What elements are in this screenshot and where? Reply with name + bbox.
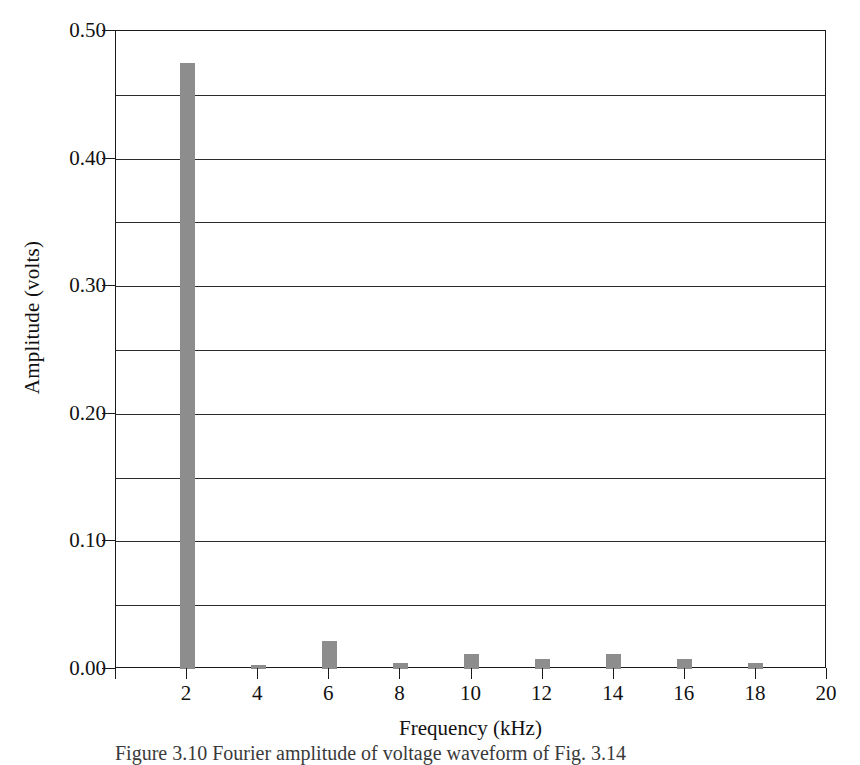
- bar: [606, 654, 621, 669]
- y-axis-tick-label: 0.50: [26, 20, 106, 41]
- y-axis-tick-label: 0.20: [26, 403, 106, 424]
- gridline: [116, 159, 825, 160]
- x-axis-title: Frequency (kHz): [115, 716, 826, 741]
- y-axis-tick-label: 0.10: [26, 530, 106, 551]
- y-axis-tick-mark: [102, 285, 116, 286]
- y-axis-tick-mark: [102, 668, 116, 669]
- x-axis-tick-mark: [613, 668, 614, 679]
- y-axis-tick-label: 0.00: [26, 658, 106, 679]
- x-axis-tick-label: 12: [512, 683, 572, 704]
- x-axis-tick-label: 10: [441, 683, 501, 704]
- gridline: [116, 541, 825, 542]
- bar: [535, 659, 550, 669]
- gridline: [116, 286, 825, 287]
- y-axis-tick-mark: [102, 158, 116, 159]
- gridline: [116, 350, 825, 351]
- x-axis-tick-mark: [328, 668, 329, 679]
- figure-caption: Figure 3.10 Fourier amplitude of voltage…: [115, 742, 815, 765]
- x-axis-tick-mark: [542, 668, 543, 679]
- x-axis-tick-mark: [257, 668, 258, 679]
- bar: [393, 663, 408, 669]
- bar: [748, 663, 763, 669]
- gridline: [116, 414, 825, 415]
- x-axis-tick-mark: [399, 668, 400, 679]
- x-axis-tick-label: 4: [227, 683, 287, 704]
- bar: [677, 659, 692, 669]
- y-axis-tick-mark: [102, 540, 116, 541]
- bar: [464, 654, 479, 669]
- x-axis-origin-tick-mark: [115, 668, 116, 679]
- plot-area: [115, 30, 826, 668]
- x-axis-tick-mark: [826, 668, 827, 679]
- x-axis-tick-mark: [684, 668, 685, 679]
- gridline: [116, 605, 825, 606]
- y-axis-tick-label: 0.40: [26, 148, 106, 169]
- x-axis-tick-label: 20: [796, 683, 856, 704]
- gridline: [116, 478, 825, 479]
- x-axis-tick-label: 6: [298, 683, 358, 704]
- x-axis-tick-mark: [186, 668, 187, 679]
- x-axis-tick-label: 2: [156, 683, 216, 704]
- x-axis-tick-label: 16: [654, 683, 714, 704]
- bar: [180, 63, 195, 669]
- y-axis-tick-mark: [102, 30, 116, 31]
- x-axis-tick-mark: [755, 668, 756, 679]
- y-axis-tick-mark: [102, 413, 116, 414]
- x-axis-tick-mark: [471, 668, 472, 679]
- x-axis-tick-label: 8: [369, 683, 429, 704]
- bar: [322, 641, 337, 669]
- x-axis-tick-label: 14: [583, 683, 643, 704]
- y-axis-tick-label: 0.30: [26, 275, 106, 296]
- bar: [251, 665, 266, 669]
- gridline: [116, 95, 825, 96]
- gridline: [116, 222, 825, 223]
- x-axis-tick-label: 18: [725, 683, 785, 704]
